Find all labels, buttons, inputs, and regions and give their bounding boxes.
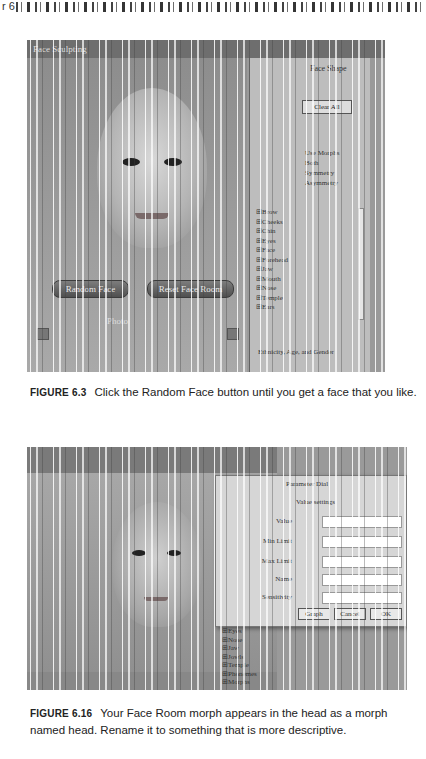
morph-item[interactable]: Face — [256, 246, 288, 256]
face-preview-panel: Random Face Reset Face Room Photo — [27, 58, 247, 372]
radio-group-label: Use Morphs — [305, 148, 339, 158]
sensitivity-input[interactable] — [322, 592, 402, 604]
name-input[interactable] — [322, 574, 402, 586]
dialog-title: Parameter Dial — [286, 480, 328, 488]
morph-item[interactable]: Eyes — [222, 627, 257, 636]
page-header: r 6 — [0, 0, 426, 14]
figure-1-caption-text: Click the Random Face button until you g… — [94, 386, 416, 398]
photo-left-control-icon[interactable] — [37, 328, 49, 340]
morph-item[interactable]: Temple — [256, 294, 288, 304]
max-limit-input[interactable] — [322, 556, 402, 568]
morph-item[interactable]: Jaw — [222, 644, 257, 653]
value-label: Value — [212, 517, 292, 525]
morph-item[interactable]: Chin — [256, 227, 288, 237]
sensitivity-field-row: Sensitivity — [222, 592, 402, 604]
face-shaping-tool-panel: Face Shape Clear All Use Morphs Both Sym… — [249, 58, 370, 372]
morph-category-list: Brow Cheeks Chin Eyes Face Forehead Jaw … — [256, 208, 288, 313]
radio-option-asymmetry[interactable]: Asymmetry — [305, 178, 339, 188]
morph-item[interactable]: Mouth — [256, 275, 288, 285]
ethnicity-age-gender-section[interactable]: Ethnicity, Age, and Gender — [258, 348, 334, 356]
figure-2-screenshot: Parameter Dial Value settings Value Min … — [27, 447, 407, 690]
morph-item[interactable]: Nose — [256, 284, 288, 294]
mouth — [135, 213, 169, 219]
name-label: Name — [212, 575, 292, 583]
min-limit-field-row: Min Limit — [222, 536, 402, 548]
morph-list-scrollbar[interactable] — [358, 208, 364, 320]
morph-item[interactable]: Ears — [256, 303, 288, 313]
cancel-button[interactable]: Cancel — [334, 608, 366, 620]
left-eye — [122, 158, 140, 166]
reset-face-room-button[interactable]: Reset Face Room — [147, 280, 234, 298]
clear-all-button[interactable]: Clear All — [302, 100, 352, 114]
morph-item[interactable]: Morphs — [222, 678, 257, 687]
morph-item[interactable]: Forehead — [256, 256, 288, 266]
sensitivity-label: Sensitivity — [212, 593, 292, 601]
left-eye — [132, 550, 146, 556]
max-limit-label: Max Limit — [212, 557, 292, 565]
morph-item[interactable]: Eyes — [256, 237, 288, 247]
header-stripe-bar — [16, 2, 426, 12]
figure-1-label: FIGURE 6.3 — [30, 387, 86, 398]
face-preview-image — [112, 502, 202, 627]
radio-option-both[interactable]: Both — [305, 158, 339, 168]
morph-item[interactable]: Nose — [222, 636, 257, 645]
value-field-row: Value — [222, 516, 402, 528]
ok-button[interactable]: OK — [370, 608, 402, 620]
morph-item[interactable]: Jaw — [256, 265, 288, 275]
min-limit-input[interactable] — [322, 536, 402, 548]
figure-1-caption: FIGURE 6.3Click the Random Face button u… — [30, 384, 420, 401]
figure-1-screenshot: Face Sculpting Random Face Reset Face Ro… — [27, 40, 385, 372]
random-face-button[interactable]: Random Face — [52, 280, 129, 298]
morph-item[interactable]: Jowls — [222, 653, 257, 662]
morph-item[interactable]: Cheeks — [256, 218, 288, 228]
face-preview-image — [97, 88, 207, 248]
figure-2-label: FIGURE 6.16 — [30, 708, 92, 719]
name-field-row: Name — [222, 574, 402, 586]
figure-2-caption: FIGURE 6.16Your Face Room morph appears … — [30, 705, 420, 738]
head-morph-list: Eyes Nose Jaw Jowls Temple Phonemes Morp… — [222, 627, 257, 687]
graph-button[interactable]: Graph — [298, 608, 330, 620]
morph-item[interactable]: Temple — [222, 661, 257, 670]
value-input[interactable] — [322, 516, 402, 528]
chapter-marker: r 6 — [2, 0, 15, 12]
app-tab-bar — [27, 447, 277, 473]
max-limit-field-row: Max Limit — [222, 556, 402, 568]
use-morphs-radio-group: Use Morphs Both Symmetry Asymmetry — [305, 148, 339, 188]
panel-tab-title[interactable]: Face Shape — [310, 64, 347, 73]
right-eye — [167, 550, 181, 556]
app-title-bar: Face Sculpting — [27, 40, 385, 58]
photo-right-control-icon[interactable] — [227, 328, 239, 340]
radio-option-symmetry[interactable]: Symmetry — [305, 168, 339, 178]
morph-item[interactable]: Phonemes — [222, 670, 257, 679]
min-limit-label: Min Limit — [212, 537, 292, 545]
photo-lineup-label: Photo — [107, 316, 128, 326]
parameter-settings-dialog: Parameter Dial Value settings Value Min … — [215, 475, 407, 627]
right-eye — [164, 158, 182, 166]
morph-item[interactable]: Brow — [256, 208, 288, 218]
mouth — [144, 597, 168, 601]
dialog-subtitle: Value settings — [296, 498, 335, 506]
